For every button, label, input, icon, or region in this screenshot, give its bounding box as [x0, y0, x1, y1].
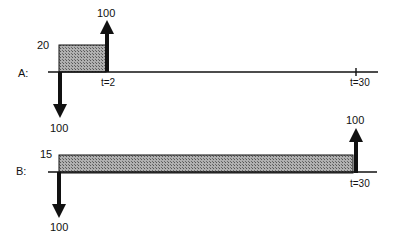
cash-flow-diagram: A: 20 100 100 t=2 t=30 B: 15 100 — [0, 0, 394, 245]
row-a-block-value: 20 — [37, 39, 49, 51]
row-b-tick-t30: t=30 — [350, 178, 370, 189]
row-b-outflow-arrow — [52, 172, 66, 218]
row-a-tick-t30: t=30 — [350, 77, 370, 88]
row-a-outflow-value: 100 — [50, 122, 68, 134]
row-a-outflow-arrow — [53, 72, 67, 118]
row-b-inflow-value: 100 — [346, 114, 364, 126]
row-a-payment-block — [59, 45, 106, 72]
row-b: B: 15 100 100 t=30 — [16, 114, 377, 233]
row-a-label: A: — [18, 67, 28, 79]
row-b-payment-block — [59, 155, 353, 173]
row-a: A: 20 100 100 t=2 t=30 — [18, 7, 378, 134]
row-a-inflow-value: 100 — [97, 7, 115, 19]
row-b-block-value: 15 — [40, 148, 52, 160]
row-b-label: B: — [16, 165, 26, 177]
row-a-tick-t2: t=2 — [101, 77, 116, 88]
row-b-outflow-value: 100 — [50, 221, 68, 233]
